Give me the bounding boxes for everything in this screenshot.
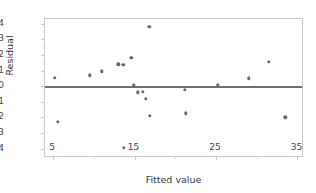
y-axis-tick-label: 4 [0, 18, 4, 27]
y-axis-minor-tick [43, 63, 46, 64]
y-axis-tick-label: 1 [0, 65, 4, 74]
data-point [141, 90, 144, 93]
x-axis-tick-label: 35 [284, 143, 308, 152]
x-axis-tick [135, 156, 136, 160]
y-axis-tick [41, 102, 45, 103]
data-point [100, 70, 103, 73]
y-axis-tick [41, 24, 45, 25]
x-axis-tick [297, 156, 298, 160]
y-axis-tick [41, 55, 45, 56]
y-axis-minor-tick [43, 94, 46, 95]
data-point [284, 116, 287, 119]
y-axis-minor-tick [43, 31, 46, 32]
y-axis-minor-tick [43, 125, 46, 126]
y-axis-minor-tick [43, 110, 46, 111]
y-axis-minor-tick [43, 141, 46, 142]
y-axis-tick [41, 117, 45, 118]
x-axis-title: Fitted value [44, 174, 303, 185]
x-axis-minor-tick [94, 156, 95, 159]
y-axis-tick-label: -1 [0, 96, 4, 105]
data-point [56, 120, 59, 123]
y-axis-tick-label: 3 [0, 34, 4, 43]
x-axis-minor-tick [175, 156, 176, 159]
data-point [130, 56, 133, 59]
data-point [88, 74, 91, 77]
plot-area [44, 18, 303, 157]
y-axis-tick [41, 86, 45, 87]
data-point [267, 60, 270, 63]
residual-plot-figure: Residual -4-3-2-1012345152535 Fitted val… [0, 0, 316, 193]
data-point [144, 97, 147, 100]
y-axis-tick-label: 0 [0, 81, 4, 90]
data-point [183, 88, 186, 91]
data-point [148, 25, 151, 28]
y-axis-tick-label: -2 [0, 112, 4, 121]
data-point [184, 112, 187, 115]
y-axis-minor-tick [43, 47, 46, 48]
y-axis-title: Residual [4, 26, 15, 86]
data-point [136, 91, 139, 94]
x-axis-minor-tick [257, 156, 258, 159]
zero-reference-line [45, 86, 302, 88]
x-axis-tick-label: 15 [122, 143, 146, 152]
y-axis-tick-label: -3 [0, 128, 4, 137]
y-axis-tick [41, 71, 45, 72]
data-point [53, 76, 56, 79]
data-point [148, 114, 151, 117]
y-axis-minor-tick [43, 78, 46, 79]
x-axis-tick [216, 156, 217, 160]
y-axis-tick-label: -4 [0, 143, 4, 152]
y-axis-tick-label: 2 [0, 49, 4, 58]
x-axis-tick [53, 156, 54, 160]
data-point [247, 77, 250, 80]
data-point [117, 63, 120, 66]
x-axis-tick-label: 25 [203, 143, 227, 152]
y-axis-tick [41, 133, 45, 134]
x-axis-tick-label: 5 [40, 143, 64, 152]
data-point [121, 63, 124, 66]
y-axis-tick [41, 39, 45, 40]
